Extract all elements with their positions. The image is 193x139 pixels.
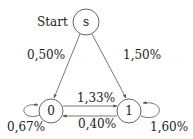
node-s-label: s <box>83 15 89 29</box>
node-1: 1 <box>117 99 141 123</box>
edge-label-s-0: 0,50% <box>27 48 65 62</box>
state-diagram: Start 0,50% 1,50% 1,33% 0,40% 0,67% 1,60… <box>0 0 193 139</box>
node-0: 0 <box>39 99 63 123</box>
edge-s-to-1: 1,50% <box>92 34 161 98</box>
start-label: Start <box>37 15 68 29</box>
edge-1-to-0: 0,40% <box>63 116 117 131</box>
node-1-label: 1 <box>125 104 133 118</box>
node-0-label: 0 <box>47 104 55 118</box>
edge-0-to-1: 1,33% <box>63 91 117 106</box>
edge-1-self-loop: 1,60% <box>141 103 188 134</box>
edge-label-0-0: 0,67% <box>7 120 45 134</box>
edge-label-1-0: 0,40% <box>78 117 116 131</box>
node-s: s <box>73 9 99 35</box>
edge-label-0-1: 1,33% <box>77 91 115 105</box>
edge-label-s-1: 1,50% <box>123 48 161 62</box>
edge-label-1-1: 1,60% <box>150 120 188 134</box>
edge-s-to-0: 0,50% <box>27 34 80 98</box>
